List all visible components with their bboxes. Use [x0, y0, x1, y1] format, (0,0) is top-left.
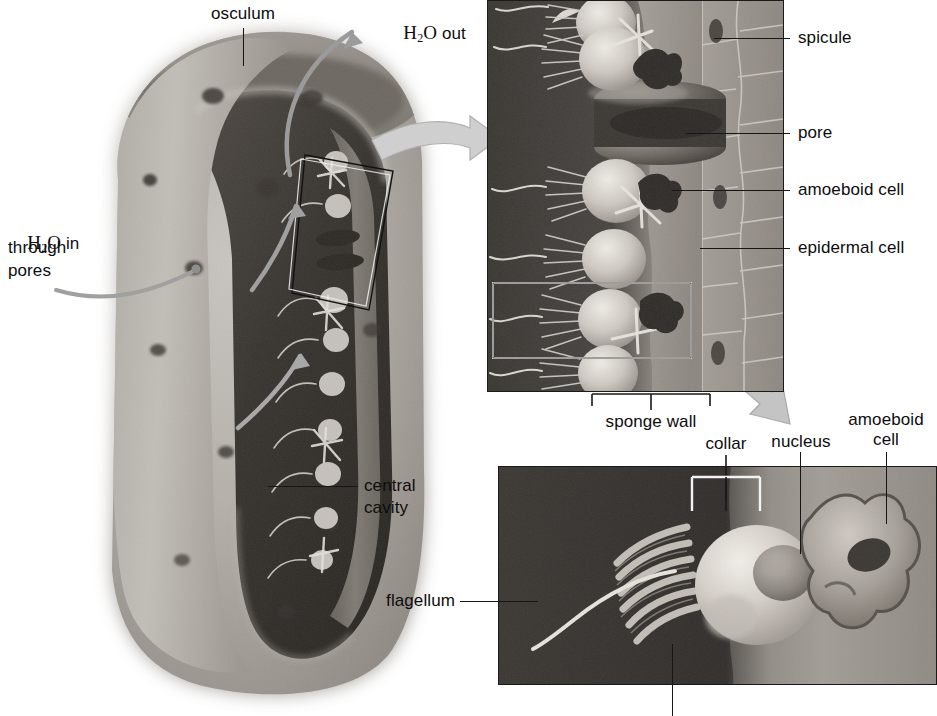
label-central-cavity-line1: central	[364, 476, 416, 496]
label-sponge-wall: sponge wall	[571, 412, 731, 432]
leader-spicule	[714, 38, 790, 39]
label-water-in-line2: through	[8, 238, 66, 258]
leader-amoeboid-cell	[672, 190, 790, 191]
label-water-out: H2O out	[384, 3, 466, 68]
leader-osculum	[243, 28, 244, 66]
water-out-rest: out	[437, 24, 466, 43]
leader-amoeboid-cell-bottom	[886, 452, 887, 524]
sponge-wall-panel	[487, 0, 784, 392]
label-osculum: osculum	[178, 4, 308, 24]
leader-epidermal-cell	[700, 248, 790, 249]
label-spicule: spicule	[798, 28, 852, 48]
leader-pore	[686, 133, 790, 134]
sponge-wall-bracket	[586, 392, 716, 414]
label-amoeboid-cell-bottom-line1: amoeboid	[836, 410, 936, 430]
leader-central-cavity	[268, 486, 358, 487]
leader-nucleus	[800, 452, 801, 554]
label-amoeboid-cell: amoeboid cell	[798, 180, 904, 200]
sponge-wall-art	[488, 1, 783, 391]
leader-flagellum	[460, 601, 538, 602]
label-pore: pore	[798, 123, 832, 143]
label-central-cavity-line2: cavity	[364, 498, 408, 518]
label-amoeboid-cell-bottom-line2: cell	[836, 430, 936, 450]
water-out-formula-tail: O	[423, 22, 437, 43]
water-out-formula: H	[403, 22, 417, 43]
label-flagellum: flagellum	[300, 591, 455, 611]
label-epidermal-cell: epidermal cell	[798, 238, 904, 258]
collar-bracket	[686, 455, 766, 545]
leader-collar-cell-bottom	[672, 644, 673, 716]
label-nucleus: nucleus	[755, 432, 847, 452]
label-water-in-line3: pores	[8, 261, 51, 281]
